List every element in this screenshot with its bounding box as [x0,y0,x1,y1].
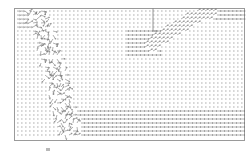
vector-arrows [17,9,245,140]
flow-features [153,8,158,31]
mark [46,148,50,151]
plot-frame [15,9,245,141]
vector-field-plot [0,0,252,154]
arrow-field [17,9,245,140]
vertical-wall-line [153,8,158,31]
